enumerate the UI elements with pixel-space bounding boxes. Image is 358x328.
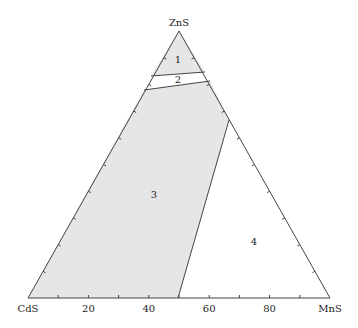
vertex-label-top: ZnS xyxy=(169,17,189,28)
region-label-2: 2 xyxy=(175,74,181,85)
ternary-diagram: ZnS CdS MnS 20 40 60 80 1 2 3 4 xyxy=(0,0,358,328)
base-tick-label-60: 60 xyxy=(203,303,216,314)
base-tick-label-80: 80 xyxy=(263,303,276,314)
region-label-3: 3 xyxy=(151,189,157,200)
region-label-4: 4 xyxy=(251,236,257,247)
base-tick-label-40: 40 xyxy=(142,303,155,314)
base-tick-label-20: 20 xyxy=(82,303,95,314)
vertex-label-left: CdS xyxy=(18,303,39,314)
region-label-1: 1 xyxy=(175,54,181,65)
vertex-label-right: MnS xyxy=(318,303,342,314)
